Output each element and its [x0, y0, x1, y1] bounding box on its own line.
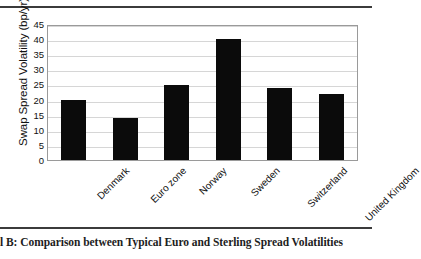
x-axis-tick-labels: DenmarkEuro zoneNorwaySwedenSwitzerlandU… — [47, 161, 358, 231]
y-tick-label: 15 — [24, 111, 44, 121]
page-rule-middle — [0, 227, 372, 229]
y-tick-label: 20 — [24, 96, 44, 106]
y-axis-tick-labels: 051015202530354045 — [24, 25, 44, 161]
y-tick-label: 0 — [24, 156, 44, 166]
bar — [267, 88, 292, 160]
y-tick-label: 30 — [24, 66, 44, 76]
bar — [61, 100, 86, 160]
bar — [113, 118, 138, 160]
figure-caption: l B: Comparison between Typical Euro and… — [0, 236, 372, 248]
y-tick-label: 45 — [24, 20, 44, 30]
bar-series — [48, 26, 357, 160]
y-tick-label: 40 — [24, 35, 44, 45]
plot-area — [47, 25, 358, 161]
x-tick-label: United Kingdom — [363, 165, 421, 223]
x-tick-label: Sweden — [249, 165, 282, 198]
bar — [164, 85, 189, 160]
y-tick-label: 25 — [24, 81, 44, 91]
bar — [319, 94, 344, 160]
y-tick-label: 35 — [24, 50, 44, 60]
bar — [216, 39, 241, 160]
x-tick-label: Norway — [197, 165, 229, 197]
bar-chart: Swap Spread Volatility (bp/yr) 051015202… — [0, 8, 372, 226]
x-tick-label: Switzerland — [305, 165, 349, 209]
x-tick-label: Denmark — [95, 165, 131, 201]
y-tick-label: 5 — [24, 141, 44, 151]
y-tick-label: 10 — [24, 126, 44, 136]
x-tick-label: Euro zone — [148, 165, 188, 205]
